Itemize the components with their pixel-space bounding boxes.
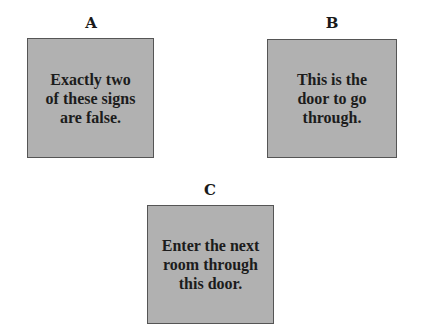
sign-a-label: A [71,14,111,32]
sign-b-text: This is the door to go through. [297,70,367,127]
sign-c-text: Enter the next room through this door. [162,236,259,293]
sign-c-label: C [190,181,230,199]
sign-b: This is the door to go through. [267,39,397,158]
sign-a-text: Exactly two of these signs are false. [46,70,136,127]
sign-a: Exactly two of these signs are false. [27,38,154,158]
sign-b-label: B [312,14,352,32]
sign-c: Enter the next room through this door. [147,205,274,324]
